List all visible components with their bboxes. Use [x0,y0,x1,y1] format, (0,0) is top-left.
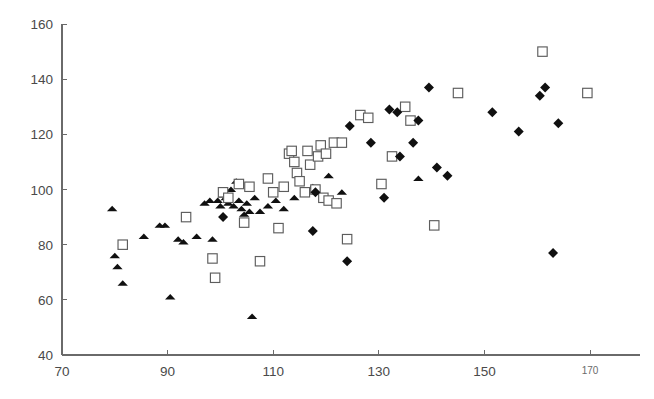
data-point-square [300,188,309,197]
data-point-triangle [110,253,120,258]
data-point-triangle [323,173,333,178]
data-point-square [279,182,288,191]
scatter-plot-canvas: 4060801001201401607090110130150170 [0,0,654,399]
data-point-square [377,179,386,188]
data-point-square [181,212,190,221]
data-point-square [342,234,351,243]
data-point-square [245,182,254,191]
data-point-diamond [384,105,394,115]
data-point-square [234,179,243,188]
data-point-diamond [514,127,524,137]
y-tick-label-40: 40 [38,348,53,363]
data-point-square [321,149,330,158]
data-point-triangle [289,195,299,200]
y-tick-label-80: 80 [38,238,53,253]
data-point-square [224,193,233,202]
data-point-square [453,88,462,97]
scatter-chart-figure: 4060801001201401607090110130150170 [0,0,654,399]
data-point-triangle [242,200,252,205]
data-point-triangle [112,264,122,269]
data-point-diamond [535,91,545,101]
data-point-diamond [432,162,442,172]
x-tick-label-170: 170 [582,365,599,376]
data-point-triangle [250,195,260,200]
data-point-triangle [118,280,128,285]
data-point-diamond [424,82,434,92]
data-point-triangle [244,209,254,214]
data-point-diamond [308,226,318,236]
y-tick-label-160: 160 [30,17,53,32]
data-point-square [583,88,592,97]
data-point-triangle [247,313,257,318]
data-point-diamond [487,107,497,117]
data-point-square [295,177,304,186]
x-tick-label-90: 90 [160,364,175,379]
axes-group [62,24,640,355]
data-point-diamond [540,82,550,92]
data-point-square [290,157,299,166]
data-point-square [337,138,346,147]
x-tick-label-70: 70 [54,364,69,379]
data-point-diamond [366,138,376,148]
axis-tick-labels-group: 4060801001201401607090110130150170 [30,17,598,379]
data-point-square [210,273,219,282]
data-point-triangle [263,203,273,208]
y-tick-label-60: 60 [38,293,53,308]
x-tick-label-150: 150 [473,364,496,379]
data-point-square [332,199,341,208]
x-tick-label-110: 110 [262,364,284,379]
data-point-diamond [218,212,228,222]
series-filled-triangles [107,173,424,319]
data-point-square [287,146,296,155]
y-tick-label-120: 120 [30,127,53,142]
data-point-triangle [215,203,225,208]
data-point-square [274,223,283,232]
data-point-square [255,257,264,266]
data-point-triangle [271,198,281,203]
data-point-diamond [379,193,389,203]
data-point-square [303,146,312,155]
data-point-diamond [442,171,452,181]
data-point-triangle [234,198,244,203]
data-point-diamond [342,256,352,266]
data-point-triangle [107,206,117,211]
data-point-triangle [255,209,265,214]
data-point-triangle [337,189,347,194]
data-point-triangle [165,294,175,299]
data-series-group [107,47,592,319]
data-point-triangle [413,176,423,181]
data-point-square [208,254,217,263]
data-point-diamond [408,138,418,148]
data-point-triangle [139,233,149,238]
data-point-square [263,174,272,183]
data-point-triangle [213,198,223,203]
data-point-diamond [345,121,355,131]
data-point-square [118,240,127,249]
data-point-diamond [553,118,563,128]
data-point-triangle [191,233,201,238]
y-tick-label-140: 140 [30,72,53,87]
data-point-square [364,113,373,122]
data-point-square [269,188,278,197]
data-point-square [239,218,248,227]
data-point-triangle [207,236,217,241]
data-point-square [430,221,439,230]
y-tick-label-100: 100 [30,183,53,198]
series-open-squares [118,47,592,283]
axis-ticks-group [62,24,590,355]
x-tick-label-130: 130 [368,364,391,379]
data-point-square [401,102,410,111]
data-point-square [538,47,547,56]
data-point-triangle [236,206,246,211]
data-point-triangle [279,206,289,211]
data-point-diamond [548,248,558,258]
